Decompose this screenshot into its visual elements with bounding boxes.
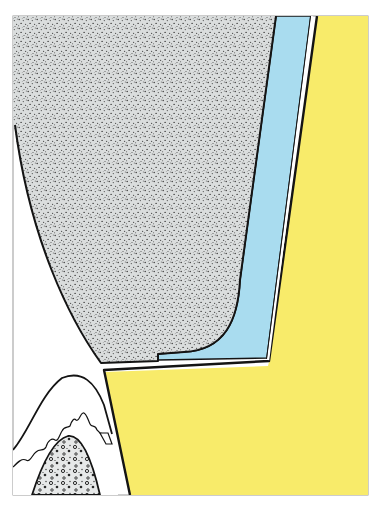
tooth-diagram <box>0 0 374 512</box>
diagram-canvas <box>0 0 374 512</box>
